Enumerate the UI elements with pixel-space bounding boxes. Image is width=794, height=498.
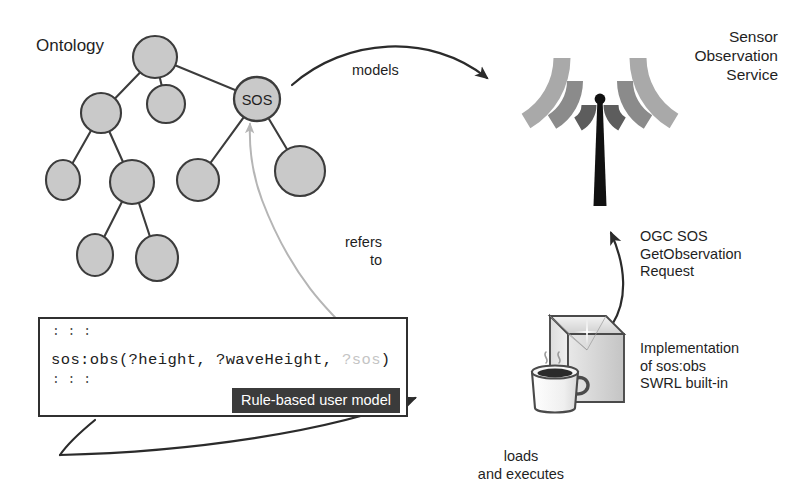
ontology-label: Ontology xyxy=(36,36,104,57)
ontology-node[interactable] xyxy=(136,235,178,281)
ontology-node[interactable] xyxy=(177,159,219,201)
rule-code-variable-sos: ?sos xyxy=(342,351,381,369)
antenna-arc-inner-left xyxy=(578,105,589,124)
ontology-node[interactable] xyxy=(275,146,325,196)
java-implementation-caption: Implementation of sos:obs SWRL built-in xyxy=(640,340,739,393)
get-observation-request-arrow xyxy=(611,233,623,325)
code-ellipsis-bottom: : : : xyxy=(52,375,91,385)
antenna-tip xyxy=(595,94,606,105)
coffee-liquid xyxy=(538,369,573,378)
java-implementation-icon xyxy=(532,316,624,413)
ontology-nodes: SOS xyxy=(46,36,325,281)
rule-code-line[interactable]: sos:obs(?height, ?waveHeight, ?sos) xyxy=(51,351,391,369)
diagram-canvas: SOS xyxy=(0,0,794,498)
models-arrow-label: models xyxy=(352,62,399,80)
code-ellipsis-top: : : : xyxy=(52,327,91,337)
loads-arrow-tail xyxy=(60,420,95,455)
refers-to-arrow-label: refers to xyxy=(322,234,382,269)
antenna-mast xyxy=(594,100,607,206)
ontology-node[interactable] xyxy=(46,160,80,200)
ontology-node[interactable] xyxy=(110,160,154,204)
ontology-node-sos-label: SOS xyxy=(242,92,273,108)
antenna-arc-inner-right xyxy=(611,105,622,124)
get-observation-request-label: OGC SOS GetObservation Request xyxy=(640,228,742,281)
loads-and-executes-label: loads and executes xyxy=(456,448,586,483)
ontology-node[interactable] xyxy=(81,93,121,133)
ontology-node[interactable] xyxy=(147,85,185,123)
ontology-node-root[interactable] xyxy=(133,36,177,78)
rule-based-user-model-caption: Rule-based user model xyxy=(232,388,400,413)
sensor-observation-service-title: Sensor Observation Service xyxy=(694,28,778,85)
rule-code-prefix: sos:obs(?height, ?waveHeight, xyxy=(51,351,342,369)
rule-code-suffix: ) xyxy=(381,351,391,369)
sensor-observation-service-icon xyxy=(526,58,674,206)
ontology-node[interactable] xyxy=(77,234,113,276)
